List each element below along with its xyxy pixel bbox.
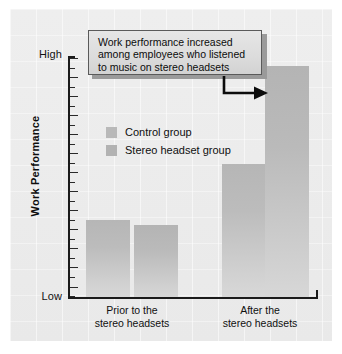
- chart-figure: High Low Work Performance Prior to thest…: [0, 0, 342, 354]
- callout-arrow-icon: [0, 0, 342, 354]
